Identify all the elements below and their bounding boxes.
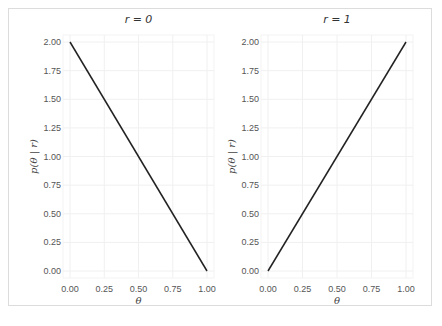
y-tick-label: 0.75	[241, 180, 259, 190]
y-tick-label: 0.00	[43, 266, 61, 276]
x-tick-label: 0.50	[328, 284, 346, 294]
x-tick-label: 0.75	[164, 284, 182, 294]
y-tick-label: 1.25	[43, 123, 61, 133]
y-axis-label: p(θ | r)	[28, 139, 40, 174]
y-tick-label: 2.00	[43, 37, 61, 47]
y-tick-label: 1.50	[241, 94, 259, 104]
y-tick-label: 1.00	[43, 152, 61, 162]
y-tick-label: 1.50	[43, 94, 61, 104]
y-axis-label: p(θ | r)	[226, 139, 238, 174]
y-tick-label: 1.75	[43, 66, 61, 76]
x-tick-label: 0.00	[259, 284, 277, 294]
x-axis-label: θ	[334, 295, 340, 306]
x-tick-label: 0.75	[363, 284, 381, 294]
y-tick-label: 0.50	[43, 209, 61, 219]
y-tick-label: 1.25	[241, 123, 259, 133]
y-tick-label: 0.50	[241, 209, 259, 219]
y-tick-label: 1.00	[241, 152, 259, 162]
y-tick-label: 1.75	[241, 66, 259, 76]
x-tick-label: 0.00	[61, 284, 79, 294]
y-tick-label: 0.25	[241, 237, 259, 247]
x-tick-label: 0.25	[294, 284, 312, 294]
x-tick-label: 1.00	[397, 284, 415, 294]
y-tick-label: 2.00	[241, 37, 259, 47]
x-tick-label: 1.00	[198, 284, 216, 294]
y-tick-label: 0.25	[43, 237, 61, 247]
chart-canvas: 0.000.250.500.751.000.000.250.500.751.00…	[0, 0, 442, 326]
y-tick-label: 0.00	[241, 266, 259, 276]
panel-title: r = 0	[125, 13, 153, 26]
panel-title: r = 1	[323, 13, 351, 26]
x-axis-label: θ	[135, 295, 141, 306]
x-tick-label: 0.25	[95, 284, 113, 294]
y-tick-label: 0.75	[43, 180, 61, 190]
x-tick-label: 0.50	[130, 284, 148, 294]
